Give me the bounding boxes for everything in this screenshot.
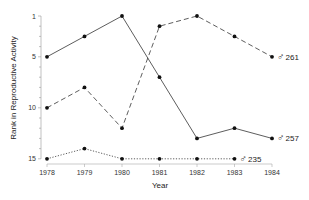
series-label: ♂235 (240, 153, 262, 164)
data-point (120, 126, 124, 130)
male-symbol-icon: ♂ (277, 132, 285, 143)
y-tick-label: 15 (28, 155, 36, 162)
x-tick-label: 1982 (189, 169, 205, 176)
x-tick-label: 1981 (152, 169, 168, 176)
series-261: ♂261 (45, 14, 299, 130)
series-235: ♂235 (45, 147, 262, 164)
data-point (270, 55, 274, 59)
x-tick-label: 1978 (39, 169, 55, 176)
series-line (47, 149, 235, 159)
y-axis-label: Rank in Reproductive Activity (9, 36, 18, 140)
line-chart: 151015 1978197919801981198219831984 ♂257… (0, 0, 309, 200)
y-tick-label: 5 (32, 53, 36, 60)
x-tick-label: 1984 (264, 169, 280, 176)
x-axis: 1978197919801981198219831984 (39, 164, 280, 176)
data-point (120, 14, 124, 18)
male-symbol-icon: ♂ (240, 153, 248, 164)
x-axis-label: Year (152, 181, 169, 190)
series-label: ♂261 (277, 51, 299, 62)
series-label: ♂257 (277, 132, 299, 143)
data-point (45, 106, 49, 110)
data-point (158, 24, 162, 28)
x-tick-label: 1983 (227, 169, 243, 176)
x-tick-label: 1979 (77, 169, 93, 176)
y-tick-label: 1 (32, 13, 36, 20)
data-point (83, 35, 87, 39)
data-point (45, 55, 49, 59)
data-point (158, 157, 162, 161)
data-point (120, 157, 124, 161)
data-point (233, 126, 237, 130)
data-point (83, 147, 87, 151)
y-tick-label: 10 (28, 104, 36, 111)
data-point (195, 157, 199, 161)
data-point (83, 86, 87, 90)
data-point (195, 137, 199, 141)
x-tick-label: 1980 (114, 169, 130, 176)
y-axis: 151015 (28, 13, 41, 163)
series-257: ♂257 (45, 14, 299, 143)
data-point (158, 75, 162, 79)
male-symbol-icon: ♂ (277, 51, 285, 62)
series-line (47, 16, 272, 128)
data-point (233, 157, 237, 161)
data-point (195, 14, 199, 18)
series-group: ♂257♂261♂235 (45, 14, 299, 164)
data-point (270, 137, 274, 141)
data-point (45, 157, 49, 161)
data-point (233, 35, 237, 39)
